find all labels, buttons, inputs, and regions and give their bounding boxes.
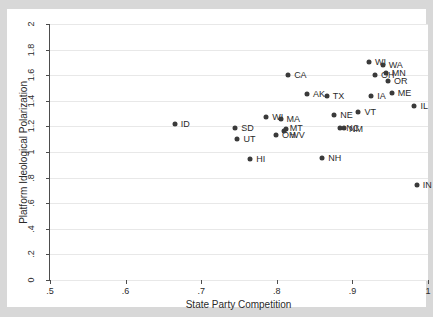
y-tick-label: 1.4 — [26, 95, 36, 108]
y-tick-mark — [46, 24, 50, 25]
data-point-label: IN — [423, 180, 432, 190]
data-point-marker — [389, 91, 394, 96]
data-point-label: IL — [420, 101, 428, 111]
x-tick-label: .6 — [122, 286, 130, 296]
data-point-marker — [286, 73, 291, 78]
gridline — [50, 254, 428, 255]
x-tick-mark — [201, 280, 202, 284]
data-point-label: HI — [256, 154, 265, 164]
data-point-marker — [332, 112, 337, 117]
data-point-marker — [172, 121, 177, 126]
data-point-marker — [385, 78, 390, 83]
data-point-label: IA — [377, 91, 386, 101]
x-tick-label: .8 — [273, 286, 281, 296]
data-point-marker — [278, 117, 283, 122]
data-point-marker — [264, 115, 269, 120]
x-axis-title: State Party Competition — [49, 299, 428, 310]
x-tick-label: .5 — [46, 286, 54, 296]
y-tick-mark — [46, 152, 50, 153]
y-tick-label: 1.2 — [26, 120, 36, 133]
plot-area: 0.2.4.6.811.21.41.61.82 .5.6.7.8.91 IDSD… — [49, 24, 428, 281]
scatter-plot-figure: Platform Ideological Polarization 0.2.4.… — [0, 0, 433, 317]
x-tick-label: .9 — [349, 286, 357, 296]
data-point-marker — [282, 128, 287, 133]
y-tick-label: 0 — [26, 277, 36, 282]
gridline — [50, 126, 428, 127]
data-point-marker — [373, 73, 378, 78]
gridline — [50, 203, 428, 204]
y-tick-mark — [46, 229, 50, 230]
data-point-marker — [274, 132, 279, 137]
x-tick-mark — [352, 280, 353, 284]
y-tick-mark — [46, 101, 50, 102]
gridline — [50, 178, 428, 179]
y-tick-label: .4 — [26, 225, 36, 233]
gridline — [50, 101, 428, 102]
y-tick-label: .6 — [26, 199, 36, 207]
data-point-label: NE — [340, 110, 353, 120]
x-tick-label: 1 — [425, 286, 430, 296]
data-point-marker — [414, 183, 419, 188]
data-point-label: ME — [398, 88, 412, 98]
data-point-label: SD — [241, 123, 254, 133]
y-tick-mark — [46, 50, 50, 51]
data-point-marker — [324, 93, 329, 98]
y-tick-mark — [46, 126, 50, 127]
data-point-marker — [383, 71, 388, 76]
gridline — [50, 152, 428, 153]
data-point-label: TX — [333, 91, 345, 101]
data-point-marker — [412, 103, 417, 108]
x-tick-mark — [428, 280, 429, 284]
y-tick-mark — [46, 75, 50, 76]
data-point-label: NM — [349, 124, 363, 134]
x-tick-mark — [277, 280, 278, 284]
chart-canvas: Platform Ideological Polarization 0.2.4.… — [7, 9, 426, 307]
data-point-marker — [342, 126, 347, 131]
data-point-marker — [248, 157, 253, 162]
y-tick-label: .8 — [26, 174, 36, 182]
y-tick-mark — [46, 178, 50, 179]
data-point-marker — [320, 155, 325, 160]
y-tick-label: 2 — [26, 21, 36, 26]
data-point-label: UT — [243, 134, 255, 144]
y-tick-mark — [46, 254, 50, 255]
data-point-label: CA — [294, 70, 307, 80]
data-point-marker — [369, 94, 374, 99]
gridline — [50, 50, 428, 51]
data-point-label: VT — [364, 107, 376, 117]
data-point-marker — [367, 60, 372, 65]
x-tick-label: .7 — [197, 286, 205, 296]
gridline — [50, 24, 428, 25]
y-tick-label: 1.6 — [26, 69, 36, 82]
y-tick-label: 1 — [26, 149, 36, 154]
data-point-label: NH — [328, 153, 341, 163]
y-tick-mark — [46, 203, 50, 204]
gridline — [50, 75, 428, 76]
data-point-marker — [305, 92, 310, 97]
data-point-label: WV — [290, 130, 305, 140]
y-tick-label: .2 — [26, 251, 36, 259]
x-tick-mark — [126, 280, 127, 284]
x-tick-mark — [50, 280, 51, 284]
data-point-marker — [380, 62, 385, 67]
data-point-marker — [356, 110, 361, 115]
data-point-marker — [233, 126, 238, 131]
gridline — [50, 280, 428, 281]
y-tick-label: 1.8 — [26, 43, 36, 56]
gridline — [50, 229, 428, 230]
data-point-label: ID — [181, 119, 190, 129]
data-point-marker — [235, 137, 240, 142]
data-point-label: OR — [394, 76, 408, 86]
